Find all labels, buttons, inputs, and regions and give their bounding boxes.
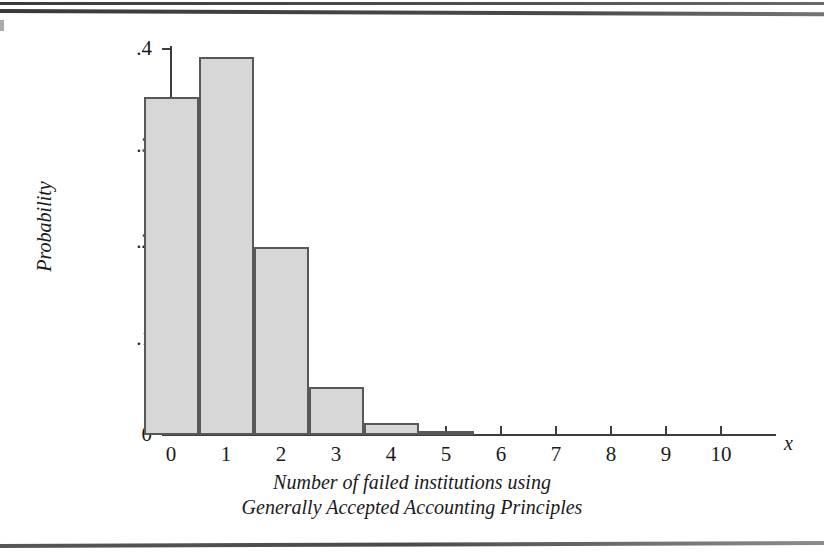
x-tick-label-3: 3 [316, 442, 356, 467]
x-tick-label-1: 1 [206, 442, 246, 467]
y-tick-label-4: .4 [112, 38, 152, 59]
caption-line-2: Generally Accepted Accounting Principles [0, 495, 824, 520]
histogram-bar-4 [364, 423, 419, 435]
x-tick-label-4: 4 [371, 442, 411, 467]
y-tick-4 [162, 48, 171, 50]
histogram-bar-5 [419, 431, 474, 435]
histogram-bar-2 [254, 247, 309, 435]
x-tick-label-9: 9 [646, 442, 686, 467]
caption-line-1: Number of failed institutions using [0, 470, 824, 495]
x-tick-label-10: 10 [701, 442, 741, 467]
figure-histogram: Probability x 0.1.2.3.4 012345678910 Num… [0, 0, 824, 552]
x-tick-label-5: 5 [426, 442, 466, 467]
histogram-bar-1 [199, 57, 254, 435]
x-tick-label-6: 6 [481, 442, 521, 467]
figure-caption: Number of failed institutions using Gene… [0, 470, 824, 520]
x-tick-10 [720, 426, 722, 435]
x-tick-label-7: 7 [536, 442, 576, 467]
x-tick-label-8: 8 [591, 442, 631, 467]
histogram-bar-0 [144, 97, 199, 435]
x-tick-7 [555, 426, 557, 435]
x-tick-6 [500, 426, 502, 435]
x-tick-8 [610, 426, 612, 435]
histogram-bar-3 [309, 387, 364, 435]
x-axis-variable-label: x [784, 432, 793, 455]
x-tick-9 [665, 426, 667, 435]
y-axis-title: Probability [33, 147, 56, 307]
x-tick-label-0: 0 [151, 442, 191, 467]
x-tick-label-2: 2 [261, 442, 301, 467]
